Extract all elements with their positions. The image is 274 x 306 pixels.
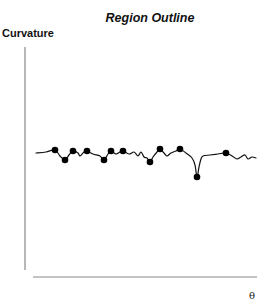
data-point-marker (52, 147, 59, 154)
data-point-marker (108, 148, 115, 155)
data-point-marker (157, 146, 164, 153)
data-point-marker (120, 148, 127, 155)
data-point-marker (177, 146, 184, 153)
data-point-marker (194, 174, 201, 181)
marked-points (52, 146, 230, 181)
plot-area (0, 0, 274, 306)
data-point-marker (147, 159, 154, 166)
data-point-marker (70, 148, 77, 155)
data-point-marker (84, 148, 91, 155)
data-point-marker (101, 157, 108, 164)
data-point-marker (223, 150, 230, 157)
data-point-marker (62, 157, 69, 164)
